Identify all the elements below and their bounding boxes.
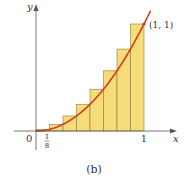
riemann-rectangle xyxy=(90,89,104,131)
tick-label-eighth-denominator: 8 xyxy=(45,142,49,150)
origin-label: 0 xyxy=(26,133,32,144)
riemann-rectangle xyxy=(77,104,91,131)
tick-label-eighth-numerator: 1 xyxy=(45,133,49,141)
tick-label-one: 1 xyxy=(141,133,147,144)
point-label: (1, 1) xyxy=(149,20,173,30)
x-axis-label: x xyxy=(173,133,179,144)
y-axis-label: y xyxy=(26,1,33,12)
chart-plot: y x 0 1 8 1 (1, 1) xyxy=(0,0,188,188)
figure-caption: (b) xyxy=(0,163,188,176)
y-axis-arrow-icon xyxy=(34,4,39,11)
riemann-rectangles xyxy=(36,24,144,131)
point-marker xyxy=(142,22,145,25)
riemann-rectangle xyxy=(131,24,145,131)
